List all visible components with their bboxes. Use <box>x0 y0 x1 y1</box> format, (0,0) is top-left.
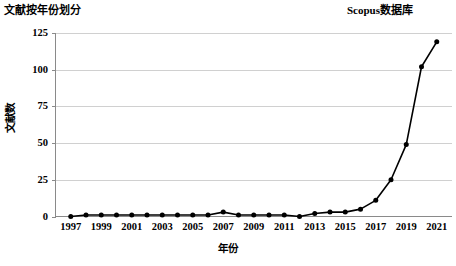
series-line-documents <box>71 42 437 217</box>
x-tick-label: 2021 <box>417 221 456 233</box>
data-point <box>328 210 333 215</box>
series-markers <box>68 39 439 219</box>
y-tick-label: 25 <box>14 174 48 185</box>
data-point <box>84 213 89 218</box>
data-point <box>114 213 119 218</box>
documents-by-year-chart: 文献按年份划分 Scopus数据库 0255075100125 19971999… <box>0 0 456 266</box>
data-point <box>251 213 256 218</box>
x-axis-title: 年份 <box>0 240 456 255</box>
data-point <box>312 211 317 216</box>
data-point <box>129 213 134 218</box>
data-point <box>145 213 150 218</box>
data-point <box>434 39 439 44</box>
data-point <box>190 213 195 218</box>
y-axis-title: 文献数 <box>2 88 17 148</box>
data-point <box>68 214 73 219</box>
y-tick-label: 100 <box>14 64 48 75</box>
data-point <box>160 213 165 218</box>
data-point <box>343 210 348 215</box>
data-point <box>175 213 180 218</box>
y-tick-label: 50 <box>14 137 48 148</box>
data-point <box>282 213 287 218</box>
data-point <box>389 177 394 182</box>
data-point <box>236 213 241 218</box>
axis-ticks <box>52 34 56 218</box>
data-point <box>419 64 424 69</box>
data-point <box>358 207 363 212</box>
data-point <box>267 213 272 218</box>
data-point <box>297 214 302 219</box>
y-tick-label: 125 <box>14 27 48 38</box>
data-point <box>206 213 211 218</box>
y-tick-label: 0 <box>14 211 48 222</box>
data-point <box>99 213 104 218</box>
data-point <box>221 210 226 215</box>
data-point <box>373 198 378 203</box>
data-point <box>404 142 409 147</box>
y-tick-label: 75 <box>14 100 48 111</box>
gridlines <box>56 34 453 181</box>
